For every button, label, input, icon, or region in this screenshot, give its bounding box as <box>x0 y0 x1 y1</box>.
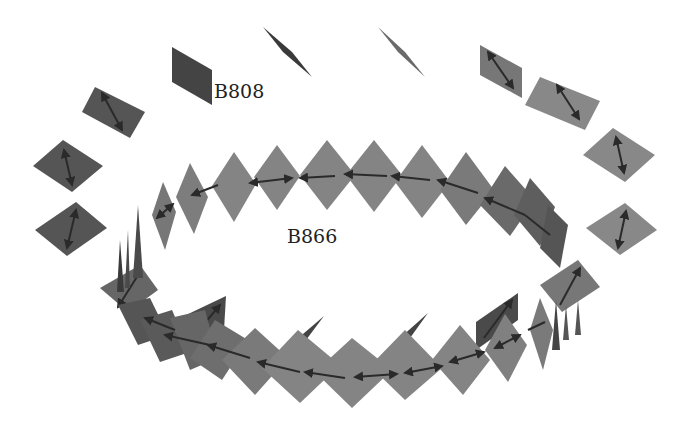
label-b866: B866 <box>287 225 337 247</box>
ring-diagram <box>0 0 692 426</box>
outer-plane <box>525 77 600 130</box>
outer-plane <box>172 47 212 105</box>
outer-plane-edge <box>263 27 312 77</box>
label-b808: B808 <box>214 80 264 102</box>
outer-plane-edge <box>378 27 425 77</box>
